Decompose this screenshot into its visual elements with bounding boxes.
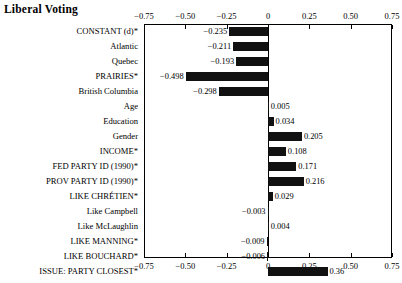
bar-area: 0.005	[144, 99, 392, 114]
bar-value-label: 0.108	[288, 146, 307, 157]
bar-area: −0.235	[144, 24, 392, 39]
bar	[268, 162, 296, 171]
row-label: PRAIRIES*	[0, 70, 138, 83]
bar	[268, 207, 269, 216]
chart-row: Atlantic−0.211	[0, 39, 402, 54]
bar-value-label: 0.005	[271, 101, 290, 112]
bar-area: −0.298	[144, 84, 392, 99]
bar	[268, 147, 286, 156]
chart-row: PROV PARTY ID (1990)*0.216	[0, 174, 402, 189]
chart-row: LIKE MANNING*−0.009	[0, 234, 402, 249]
bar	[267, 237, 268, 246]
bar-value-label: 0.029	[275, 191, 294, 202]
bar	[186, 72, 268, 81]
bar	[268, 102, 269, 111]
row-label: INCOME*	[0, 145, 138, 158]
bar-area: 0.216	[144, 174, 392, 189]
row-label: FED PARTY ID (1990)*	[0, 160, 138, 173]
bar	[268, 117, 274, 126]
bar-value-label: −0.009	[241, 236, 265, 247]
chart-row: Quebec−0.193	[0, 54, 402, 69]
x-axis-tick-label: −0.75	[134, 11, 154, 21]
bar-value-label: 0.171	[298, 161, 317, 172]
bar-value-label: −0.235	[204, 26, 228, 37]
bar-value-label: −0.003	[242, 206, 266, 217]
row-label: LIKE CHRÉTIEN*	[0, 190, 138, 203]
row-label: Age	[0, 100, 138, 113]
chart-row: Age0.005	[0, 99, 402, 114]
chart-row: PRAIRIES*−0.498	[0, 69, 402, 84]
bar-value-label: 0.034	[276, 116, 295, 127]
bar	[268, 267, 328, 276]
x-axis-tick-label: −0.50	[175, 11, 195, 21]
bar-area: 0.205	[144, 129, 392, 144]
x-axis-tick-label: −0.25	[217, 11, 237, 21]
chart-row: Like Campbell−0.003	[0, 204, 402, 219]
row-label: PROV PARTY ID (1990)*	[0, 175, 138, 188]
row-label: British Columbia	[0, 85, 138, 98]
bar	[267, 252, 268, 261]
bar	[233, 42, 268, 51]
chart-row: Like McLaughlin0.004	[0, 219, 402, 234]
liberal-voting-chart: Liberal Voting −0.75−0.50−0.2500.250.500…	[0, 0, 402, 283]
bar-value-label: 0.216	[306, 176, 325, 187]
bar-area: 0.034	[144, 114, 392, 129]
row-label: LIKE BOUCHARD*	[0, 250, 138, 263]
bar-value-label: −0.006	[241, 251, 265, 262]
row-label: CONSTANT (d)*	[0, 25, 138, 38]
bar-area: −0.498	[144, 69, 392, 84]
row-label: Quebec	[0, 55, 138, 68]
bar-value-label: −0.211	[208, 41, 231, 52]
bar	[268, 177, 304, 186]
bar-value-label: 0.205	[304, 131, 323, 142]
bar-area: −0.211	[144, 39, 392, 54]
bar-rows: CONSTANT (d)*−0.235Atlantic−0.211Quebec−…	[0, 24, 402, 279]
bar-value-label: −0.498	[160, 71, 184, 82]
chart-title: Liberal Voting	[4, 3, 78, 15]
bar	[229, 27, 268, 36]
bar	[268, 192, 273, 201]
bar	[268, 132, 302, 141]
x-axis-tick-label: 0.50	[343, 11, 358, 21]
chart-row: LIKE CHRÉTIEN*0.029	[0, 189, 402, 204]
bar-value-label: −0.298	[193, 86, 217, 97]
row-label: Gender	[0, 130, 138, 143]
x-axis-tick-label: 0.25	[302, 11, 317, 21]
bar-area: −0.003	[144, 204, 392, 219]
bar-area: 0.004	[144, 219, 392, 234]
row-label: Like McLaughlin	[0, 220, 138, 233]
x-axis-tick-label: 0.75	[385, 11, 400, 21]
bar-area: −0.009	[144, 234, 392, 249]
row-label: LIKE MANNING*	[0, 235, 138, 248]
chart-row: INCOME*0.108	[0, 144, 402, 159]
bar-area: 0.108	[144, 144, 392, 159]
chart-row: Gender0.205	[0, 129, 402, 144]
chart-row: Education0.034	[0, 114, 402, 129]
bar	[219, 87, 268, 96]
bar	[268, 222, 269, 231]
chart-row: LIKE BOUCHARD*−0.006	[0, 249, 402, 264]
bar-area: 0.171	[144, 159, 392, 174]
chart-row: FED PARTY ID (1990)*0.171	[0, 159, 402, 174]
bar-value-label: 0.36	[330, 266, 345, 277]
chart-row: CONSTANT (d)*−0.235	[0, 24, 402, 39]
bar-area: −0.006	[144, 249, 392, 264]
bar-area: 0.36	[144, 264, 392, 279]
x-axis-tick-label: 0	[266, 11, 270, 21]
bar-value-label: −0.193	[211, 56, 235, 67]
bar-value-label: 0.004	[271, 221, 290, 232]
chart-row: British Columbia−0.298	[0, 84, 402, 99]
row-label: Atlantic	[0, 40, 138, 53]
bar-area: −0.193	[144, 54, 392, 69]
row-label: Like Campbell	[0, 205, 138, 218]
row-label: ISSUE: PARTY CLOSEST*	[0, 265, 138, 278]
bar	[236, 57, 268, 66]
bar-area: 0.029	[144, 189, 392, 204]
chart-row: ISSUE: PARTY CLOSEST*0.36	[0, 264, 402, 279]
row-label: Education	[0, 115, 138, 128]
